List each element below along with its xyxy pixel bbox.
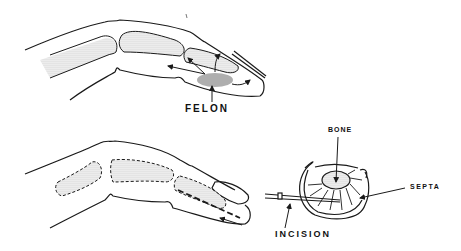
cross-section [265, 162, 369, 219]
label-felon: FELON [185, 103, 229, 114]
leader-lines [220, 137, 405, 228]
label-septa: SEPTA [410, 183, 440, 190]
felon-diagram: FELON BONE SEPTA INCISION [0, 0, 461, 251]
felon-abscess [197, 73, 233, 87]
label-bone: BONE [328, 126, 352, 133]
diagram-artwork [0, 0, 461, 251]
label-incision: INCISION [275, 229, 331, 239]
top-bones [40, 31, 238, 78]
speck [186, 14, 187, 18]
